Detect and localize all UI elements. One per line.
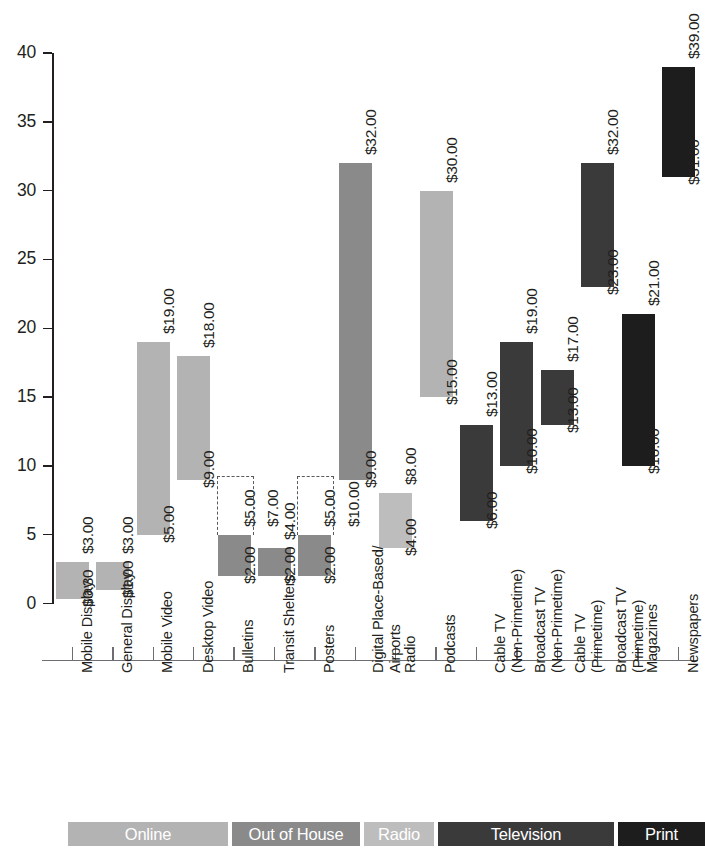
- bar-extended-value-label: $7.00: [265, 489, 281, 526]
- bar-low-value-label: $5.00: [161, 505, 177, 542]
- bar-high-value-label: $13.00: [484, 371, 500, 417]
- bar-high-value-label: $3.00: [80, 517, 96, 554]
- bar-high-value-label: $32.00: [605, 109, 621, 155]
- bar-high-value-label: $8.00: [403, 448, 419, 485]
- x-axis-label-magazines: Magazines: [644, 604, 661, 673]
- y-axis-tick-label: 25: [2, 250, 36, 268]
- y-axis-tick: [43, 396, 52, 398]
- x-axis-label-bulletins: Bulletins: [240, 620, 257, 673]
- x-axis-tick: [678, 647, 679, 660]
- range-bar-chart: 0510152025303540 $0.30$3.00$1.00$3.00$5.…: [0, 0, 705, 848]
- highlight-dashed-box: [297, 476, 334, 535]
- legend-item-out-of-house[interactable]: Out of House: [232, 822, 360, 846]
- bar-low-value-label: $13.00: [565, 387, 581, 433]
- x-axis-tick: [193, 647, 194, 660]
- legend-item-television[interactable]: Television: [438, 822, 614, 846]
- y-axis-tick-label: 40: [2, 44, 36, 62]
- bar-high-value-label: $3.00: [120, 517, 136, 554]
- x-axis-label-general-display: General Display: [119, 572, 136, 673]
- y-axis-tick-label: 20: [2, 319, 36, 337]
- x-axis-label-desktop-video: Desktop Video: [200, 581, 217, 673]
- x-axis-label-mobile-display: Mobile Display: [79, 581, 96, 673]
- x-axis-label-broadcast-tv-non-primetime: Broadcast TV(Non-Primetime): [532, 569, 565, 673]
- x-axis-tick: [435, 647, 436, 660]
- y-axis-tick-label: 10: [2, 457, 36, 475]
- bar-low-value-label: $31.00: [686, 139, 702, 185]
- bar-low-value-label: $9.00: [363, 450, 379, 487]
- y-axis-tick: [43, 121, 52, 123]
- y-axis-tick: [43, 190, 52, 192]
- x-axis-tick: [314, 647, 315, 660]
- bar-low-value-label: $23.00: [605, 249, 621, 295]
- x-axis-tick: [112, 647, 113, 660]
- bar-low-value-label: $2.00: [242, 547, 258, 584]
- x-axis-tick: [153, 647, 154, 660]
- bar-low-value-label: $6.00: [484, 492, 500, 529]
- x-axis-tick: [233, 647, 234, 660]
- bar-low-value-label: $4.00: [403, 519, 419, 556]
- y-axis-tick: [43, 603, 52, 605]
- y-axis-tick-label: 30: [2, 182, 36, 200]
- y-axis-tick-label: 15: [2, 388, 36, 406]
- x-axis-label-radio: Radio: [402, 636, 419, 673]
- plot-area: 0510152025303540 $0.30$3.00$1.00$3.00$5.…: [0, 0, 705, 848]
- bar-digital-place-based-airports: [339, 163, 372, 480]
- x-axis-label-newspapers: Newspapers: [685, 594, 702, 673]
- y-axis-tick-label: 5: [2, 526, 36, 544]
- legend-item-online[interactable]: Online: [68, 822, 228, 846]
- bar-high-value-label: $30.00: [444, 137, 460, 183]
- bar-high-value-label: $32.00: [363, 109, 379, 155]
- x-axis-label-digital-place-based-airports: Digital Place-Based/Airports: [370, 546, 403, 673]
- legend-item-radio[interactable]: Radio: [364, 822, 434, 846]
- bar-extended-value-label: $10.00: [346, 481, 362, 527]
- y-axis-tick: [43, 328, 52, 330]
- x-axis-label-transit-shelters: Transit Shelters: [281, 575, 298, 673]
- y-axis-tick-label: 35: [2, 113, 36, 131]
- highlight-dashed-box: [217, 476, 254, 535]
- y-axis-line: [52, 53, 54, 604]
- y-axis-tick: [43, 52, 52, 54]
- bar-low-value-label: $15.00: [444, 359, 460, 405]
- y-axis-tick: [43, 259, 52, 261]
- y-axis-tick: [43, 465, 52, 467]
- y-axis-tick-label: 0: [2, 595, 36, 613]
- bar-high-value-label: $18.00: [201, 302, 217, 348]
- bar-low-value-label: $10.00: [524, 428, 540, 474]
- x-axis-label-mobile-video: Mobile Video: [159, 591, 176, 673]
- bar-low-value-label: $9.00: [201, 450, 217, 487]
- x-axis-label-cable-tv-primetime: Cable TV(Primetime): [572, 600, 605, 673]
- legend-item-print[interactable]: Print: [618, 822, 705, 846]
- bar-high-value-label: $21.00: [646, 261, 662, 307]
- bar-high-value-label: $39.00: [686, 13, 702, 59]
- x-axis-tick: [72, 647, 73, 660]
- x-axis-tick: [355, 647, 356, 660]
- x-axis-label-cable-tv-non-primetime: Cable TV(Non-Primetime): [492, 569, 525, 673]
- x-axis-label-posters: Posters: [321, 625, 338, 673]
- bar-high-value-label: $19.00: [524, 288, 540, 334]
- bar-low-value-label: $2.00: [322, 547, 338, 584]
- x-axis-label-podcasts: Podcasts: [442, 615, 459, 673]
- y-axis-tick: [43, 534, 52, 536]
- bar-high-value-label: $19.00: [161, 288, 177, 334]
- x-axis-label-broadcast-tv-primetime: Broadcast TV(Primetime): [613, 587, 646, 673]
- bar-low-value-label: $10.00: [646, 428, 662, 474]
- bar-high-value-label: $17.00: [565, 316, 581, 362]
- x-axis-tick: [476, 647, 477, 660]
- bar-high-value-label: $4.00: [282, 503, 298, 540]
- x-axis-tick: [274, 647, 275, 660]
